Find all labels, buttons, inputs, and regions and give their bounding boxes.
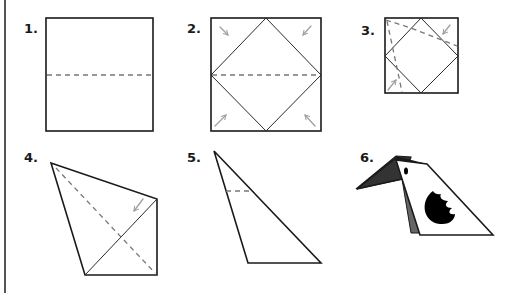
- step-2-figure: [211, 18, 321, 131]
- bird-eye: [404, 168, 408, 175]
- step-4-label: 4.: [24, 151, 38, 164]
- kite-shape: [51, 163, 157, 275]
- paper-square: [46, 18, 153, 131]
- bird-icon: [356, 156, 493, 235]
- diagram-canvas: [0, 0, 515, 293]
- step-1-label: 1.: [24, 22, 38, 35]
- step-1-figure: [46, 18, 153, 131]
- step-6-label: 6.: [360, 151, 374, 164]
- step-3-label: 3.: [361, 24, 375, 37]
- triangle-shape: [214, 151, 321, 263]
- step-5-figure: [214, 151, 321, 263]
- origami-diagram: 1. 2. 3. 4. 5. 6.: [0, 0, 515, 293]
- step-3-figure: [385, 18, 458, 93]
- step-5-label: 5.: [187, 151, 201, 164]
- step-4-figure: [51, 163, 157, 275]
- step-2-label: 2.: [187, 22, 201, 35]
